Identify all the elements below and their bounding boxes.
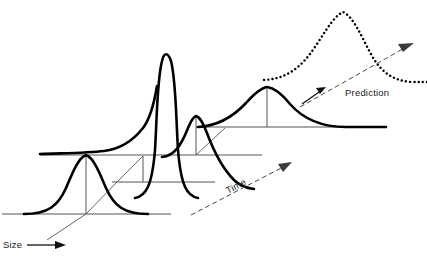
solid-curves-group [24,54,386,214]
size-axis-arrow-head [55,241,66,249]
callout-arrow-group [302,87,326,104]
size-axis-arrow-group [27,241,66,249]
connector-t1-origin [47,214,86,240]
prediction-label: Prediction [345,87,389,98]
distribution-over-time-diagram: Size Time Prediction [0,0,427,258]
connector-t3-t4 [117,156,143,182]
depth-connectors-group [47,128,225,240]
time-axis-label: Time [224,176,248,196]
size-axis-label: Size [3,239,22,250]
time-axis-arrow-head [278,162,292,172]
curve-distribution-t2 [40,86,157,154]
diagram-canvas: Size Time Prediction [0,0,427,258]
